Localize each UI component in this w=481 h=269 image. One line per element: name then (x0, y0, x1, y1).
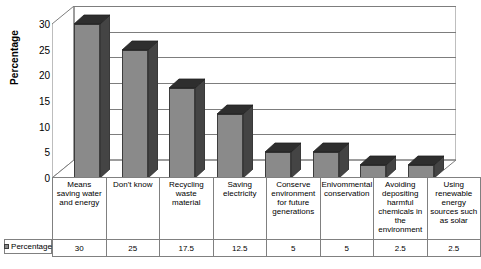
bar-top-face (408, 155, 444, 166)
bar (169, 79, 195, 178)
category-label-line: Conserve (268, 180, 319, 189)
y-axis-tick-label: 15 (24, 96, 50, 107)
y-axis-tick-label: 20 (24, 70, 50, 81)
bar-front-face (313, 152, 339, 178)
category-label-line: conservation (322, 189, 373, 198)
table-cell-category: Savingelectricity (213, 178, 267, 240)
category-label-line: harmful (375, 198, 426, 207)
y-axis-tick-labels: 051015202530 (24, 6, 50, 178)
category-label-line: as solar (429, 216, 480, 225)
table-cell-value: 30 (53, 240, 107, 257)
bar-front-face (265, 152, 291, 178)
table-cell-category: Enivommentalconservation (320, 178, 374, 240)
table-cell-value: 2.5 (427, 240, 481, 257)
bar (122, 41, 148, 178)
table-cell-value: 12.5 (213, 240, 267, 257)
y-axis-tick-label: 5 (24, 147, 50, 158)
bar (313, 143, 339, 178)
bar-front-face (217, 114, 243, 178)
table-cell-value: 17.5 (160, 240, 214, 257)
bar-front-face (122, 50, 148, 178)
table-cell-category: Usingrenewableenergysources suchas solar (427, 178, 481, 240)
category-label-line: waste (161, 189, 212, 198)
category-label-line: for future (268, 198, 319, 207)
category-label-line: the (375, 216, 426, 225)
bar-front-face (74, 24, 100, 178)
table-cell-value: 2.5 (374, 240, 428, 257)
category-label-line: and energy (54, 198, 105, 207)
bar-top-face (122, 40, 158, 51)
table-cell-value: 25 (106, 240, 160, 257)
bar-top-face (360, 155, 396, 166)
bar (217, 105, 243, 178)
data-table: Meanssaving waterand energyDon't knowRec… (52, 177, 481, 257)
bar-side-face (148, 40, 158, 178)
bar (265, 143, 291, 178)
y-axis-tick-label: 30 (24, 19, 50, 30)
bar (74, 15, 100, 178)
category-label-line: electricity (215, 189, 266, 198)
bar-top-face (169, 78, 205, 89)
bar-front-face (169, 88, 195, 178)
category-label-line: energy (429, 198, 480, 207)
category-label-line: Avoiding (375, 180, 426, 189)
category-label-line: material (161, 198, 212, 207)
y-axis-title: Percentage (9, 0, 20, 118)
bar-top-face (265, 142, 301, 153)
table-cell-category: Recyclingwastematerial (160, 178, 214, 240)
category-label-line: depositing (375, 189, 426, 198)
category-label-line: Don't know (108, 180, 159, 189)
bar-top-face (217, 104, 253, 115)
y-axis-tick-label: 25 (24, 44, 50, 55)
legend-label: Percentage (11, 242, 52, 251)
category-label-line: environment (268, 189, 319, 198)
legend-key: Percentage (4, 239, 52, 254)
bar (408, 156, 434, 178)
category-label-line: Means (54, 180, 105, 189)
table-row-values: 302517.512.5552.52.5 (53, 240, 481, 257)
bar-side-face (243, 104, 253, 178)
category-label-line: Enivommental (322, 180, 373, 189)
bar-top-face (313, 142, 349, 153)
category-label-line: saving water (54, 189, 105, 198)
bar-side-face (195, 78, 205, 178)
plot-area (52, 6, 456, 178)
category-label-line: renewable (429, 189, 480, 198)
bar (360, 156, 386, 178)
table-cell-value: 5 (320, 240, 374, 257)
table-cell-category: Meanssaving waterand energy (53, 178, 107, 240)
category-label-line: sources such (429, 207, 480, 216)
table-cell-category: Conserveenvironmentfor futuregenerations (267, 178, 321, 240)
category-label-line: generations (268, 207, 319, 216)
bar-side-face (100, 14, 110, 178)
legend-swatch-icon (4, 244, 9, 249)
category-label-line: Using (429, 180, 480, 189)
table-cell-category: Avoidingdepositingharmfulchemicals inthe… (374, 178, 428, 240)
table-cell-category: Don't know (106, 178, 160, 240)
category-label-line: environment (375, 225, 426, 234)
category-label-line: chemicals in (375, 207, 426, 216)
table-cell-value: 5 (267, 240, 321, 257)
bar-series-percentage (52, 6, 456, 178)
category-label-line: Saving (215, 180, 266, 189)
y-axis-tick-label: 10 (24, 121, 50, 132)
bar-top-face (74, 14, 110, 25)
y-axis-tick-label: 0 (24, 173, 50, 184)
table-row-categories: Meanssaving waterand energyDon't knowRec… (53, 178, 481, 240)
category-label-line: Recycling (161, 180, 212, 189)
